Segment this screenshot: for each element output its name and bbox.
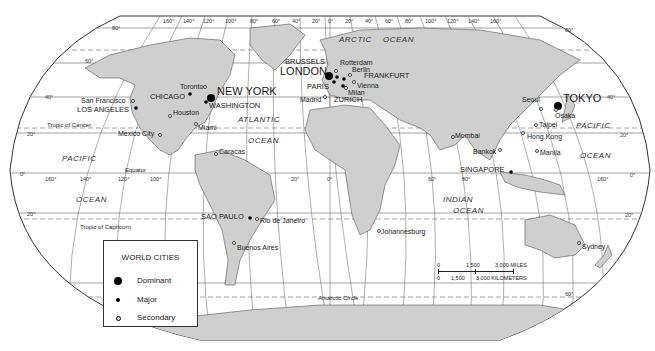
svg-text:OCEAN: OCEAN (580, 151, 611, 160)
svg-text:Manila: Manila (540, 149, 561, 156)
city-bankok-marker (499, 149, 502, 152)
svg-text:80°: 80° (462, 176, 470, 182)
svg-text:60°: 60° (565, 291, 573, 297)
svg-text:100°: 100° (425, 18, 436, 24)
svg-text:Buenos Aires: Buenos Aires (237, 244, 279, 251)
svg-text:160°: 160° (163, 18, 174, 24)
svg-text:40°: 40° (45, 94, 53, 100)
svg-text:0°: 0° (630, 172, 635, 178)
open-circle-icon (116, 316, 121, 321)
svg-text:Rotterdam: Rotterdam (340, 59, 373, 66)
svg-text:160°: 160° (45, 176, 56, 182)
svg-text:60°: 60° (272, 18, 280, 24)
svg-text:60°: 60° (385, 18, 393, 24)
small-dot-icon (116, 298, 120, 302)
top-longitude-ticks: 160° 140° 120° 100° 80° 60° 40° 20° 0° 2… (163, 18, 501, 24)
city-san-francisco-marker (132, 100, 135, 103)
svg-text:100°: 100° (150, 176, 161, 182)
svg-text:Osaka: Osaka (555, 112, 575, 119)
svg-text:Rio de Janeiro: Rio de Janeiro (260, 217, 305, 224)
svg-text:SINGAPORE: SINGAPORE (460, 165, 505, 174)
svg-text:20°: 20° (620, 132, 628, 138)
svg-text:40°: 40° (607, 94, 615, 100)
svg-text:20°: 20° (625, 212, 633, 218)
svg-text:Berlin: Berlin (352, 66, 370, 73)
city-chicago-marker (188, 92, 192, 96)
svg-text:BRUSSELS: BRUSSELS (285, 57, 325, 66)
city-los-angeles-marker (134, 106, 138, 110)
legend: WORLD CITIES Dominant Major Secondary (103, 240, 198, 327)
svg-text:PARIS: PARIS (307, 82, 329, 91)
svg-text:CHICAGO: CHICAGO (150, 92, 185, 101)
svg-text:Antarctic Circle: Antarctic Circle (318, 295, 359, 301)
svg-text:Vienna: Vienna (357, 82, 379, 89)
svg-text:Mexico City: Mexico City (118, 130, 155, 138)
svg-text:20°: 20° (291, 176, 299, 182)
svg-text:Miami: Miami (198, 124, 217, 131)
svg-text:INDIAN: INDIAN (443, 195, 473, 204)
svg-text:LOS ANGELES: LOS ANGELES (77, 105, 129, 114)
svg-text:Tropic of Cancer: Tropic of Cancer (47, 122, 91, 128)
svg-text:140°: 140° (468, 18, 479, 24)
svg-text:60°: 60° (428, 176, 436, 182)
svg-text:OCEAN: OCEAN (76, 195, 107, 204)
svg-text:20°: 20° (27, 131, 35, 137)
city-washington-marker (204, 100, 208, 104)
legend-item-dominant: Dominant (104, 274, 197, 288)
city-mexico-city-marker (159, 134, 162, 137)
svg-text:ZURICH: ZURICH (334, 95, 362, 104)
city-hong-kong-marker (522, 132, 525, 135)
svg-text:Johannesburg: Johannesburg (381, 228, 425, 236)
svg-text:Taipei: Taipei (539, 121, 558, 129)
city-sydney-marker (578, 242, 581, 245)
svg-text:80°: 80° (250, 18, 258, 24)
city-frankfurt-marker (342, 77, 346, 81)
svg-text:120°: 120° (118, 176, 129, 182)
scale-bar: 0 1,500 3,000 MILES 0 1,500 3,000 KILOME… (437, 262, 537, 292)
svg-text:LONDON: LONDON (280, 65, 327, 77)
svg-text:San Francisco: San Francisco (81, 97, 126, 104)
svg-text:Bankok: Bankok (473, 148, 497, 155)
svg-text:PACIFIC: PACIFIC (576, 121, 610, 130)
svg-text:Toronto: Toronto (180, 83, 203, 90)
legend-item-secondary: Secondary (104, 311, 197, 325)
svg-text:Tropic of Capricorn: Tropic of Capricorn (80, 224, 131, 230)
svg-text:Caracas: Caracas (219, 148, 246, 155)
city-caracas-marker (215, 153, 218, 156)
svg-text:0°: 0° (20, 171, 25, 177)
svg-text:120°: 120° (447, 18, 458, 24)
svg-text:60°: 60° (85, 58, 93, 64)
svg-text:WASHINGTON: WASHINGTON (209, 101, 260, 110)
legend-item-major: Major (104, 293, 197, 307)
city-singapore-marker (509, 170, 513, 174)
svg-text:ARCTIC: ARCTIC (338, 35, 372, 44)
svg-text:OCEAN: OCEAN (248, 136, 279, 145)
large-dot-icon (114, 277, 122, 285)
city-sao-paulo-marker (248, 216, 252, 220)
svg-text:0°: 0° (328, 18, 333, 24)
svg-text:20°: 20° (27, 211, 35, 217)
city-seoul-marker (540, 108, 543, 111)
city-taipei-marker (535, 124, 538, 127)
svg-text:PACIFIC: PACIFIC (62, 154, 96, 163)
svg-text:TOKYO: TOKYO (563, 92, 602, 104)
svg-text:NEW YORK: NEW YORK (217, 85, 277, 97)
city-rotterdam-marker (335, 70, 338, 73)
svg-text:Hong Kong: Hong Kong (527, 133, 562, 141)
svg-text:80°: 80° (565, 27, 573, 33)
svg-text:20°: 20° (345, 18, 353, 24)
svg-text:40°: 40° (365, 18, 373, 24)
city-manila-marker (536, 150, 539, 153)
svg-text:Sydney: Sydney (582, 243, 606, 251)
svg-text:Seoul: Seoul (522, 96, 540, 103)
city-zurich-marker (341, 84, 345, 88)
svg-text:80°: 80° (112, 25, 120, 31)
city-rio-marker (256, 218, 259, 221)
city-madrid-marker (324, 96, 327, 99)
svg-text:Milan: Milan (348, 89, 365, 96)
svg-text:40°: 40° (292, 18, 300, 24)
svg-text:20°: 20° (312, 18, 320, 24)
svg-text:OCEAN: OCEAN (383, 35, 414, 44)
svg-text:Houston: Houston (173, 109, 199, 116)
city-houston-marker (169, 115, 172, 118)
